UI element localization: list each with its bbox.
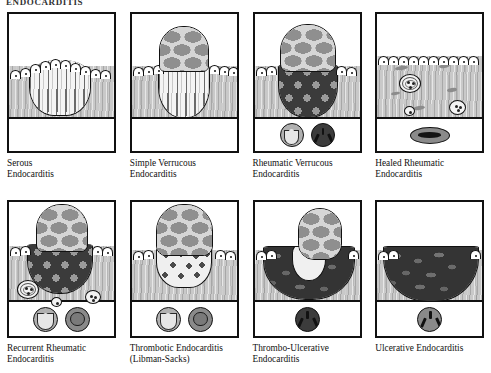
- valve-orifice-shape: [312, 124, 334, 146]
- caption-thrombo-ulcerative-endocarditis: Thrombo-Ulcerative Endocarditis: [253, 343, 362, 365]
- valve-cross-section-nodular-inset: [65, 307, 90, 332]
- verrucous-vegetation: [36, 204, 88, 252]
- scene-serous: [9, 14, 114, 151]
- caption-serous-endocarditis: Serous Endocarditis: [7, 158, 116, 180]
- scene-simple-verrucous: [132, 14, 237, 151]
- thrombotic-vegetation: [156, 204, 213, 256]
- valve-cross-section-cusp-inset: [156, 307, 181, 332]
- scene-recurrent-rheumatic: [9, 202, 114, 336]
- serous-edema-lesion: [158, 64, 210, 118]
- granular-inflammatory-mass: [278, 64, 338, 118]
- valve-inset-shelf: [255, 302, 360, 336]
- caption-recurrent-rheumatic-endocarditis: Recurrent Rheumatic Endocarditis: [7, 343, 116, 365]
- scene-ulcerative: [377, 202, 482, 336]
- panel-thrombo-ulcerative-endocarditis: Thrombo-Ulcerative Endocarditis: [246, 200, 369, 373]
- valve-cross-section-cusp-inset: [33, 307, 58, 332]
- aschoff-body: [17, 280, 39, 299]
- panel-simple-verrucous-endocarditis: Simple Verrucous Endocarditis: [123, 12, 246, 200]
- aschoff-body: [51, 297, 62, 307]
- fibrin-granule-texture: [160, 27, 208, 71]
- valve-nodule-shape: [193, 312, 208, 327]
- plate-title: ENDOCARDITIS: [6, 0, 83, 7]
- figure-ulcerative-endocarditis: [375, 200, 484, 338]
- figure-simple-verrucous-endocarditis: [130, 12, 239, 153]
- caption-ulcerative-endocarditis: Ulcerative Endocarditis: [375, 343, 484, 354]
- inset-shelf-divider: [9, 117, 114, 119]
- valve-slit-shape: [418, 132, 441, 137]
- valve-cusp-shape: [284, 130, 300, 145]
- panel-serous-endocarditis: Serous Endocarditis: [0, 12, 123, 200]
- aschoff-body: [85, 290, 101, 304]
- valve-nodule-shape: [70, 312, 85, 327]
- figure-healed-rheumatic-endocarditis: [375, 12, 484, 153]
- valve-cross-section-nodular-inset: [188, 307, 213, 332]
- caption-thrombotic-endocarditis: Thrombotic Endocarditis (Libman-Sacks): [130, 343, 239, 365]
- valve-cross-section-orifice-inset: [295, 307, 320, 332]
- panel-thrombotic-endocarditis-libman-sacks: Thrombotic Endocarditis (Libman-Sacks): [123, 200, 246, 373]
- valve-cross-section-thickened-inset: [410, 127, 450, 144]
- fibrin-granule-texture: [281, 25, 335, 71]
- panel-rheumatic-verrucous-endocarditis: Rheumatic Verrucous Endocarditis: [246, 12, 369, 200]
- valve-cross-section-cusp-inset: [280, 123, 304, 147]
- thrombotic-vegetation: [298, 208, 342, 260]
- figure-thrombotic-endocarditis: [130, 200, 239, 338]
- endothelial-cell-layer: [377, 52, 482, 61]
- valve-cross-section-orifice-inset: [311, 123, 335, 147]
- endothelial-cell-layer: [9, 62, 114, 71]
- figure-serous-endocarditis: [7, 12, 116, 153]
- figure-recurrent-rheumatic-endocarditis: [7, 200, 116, 338]
- caption-simple-verrucous-endocarditis: Simple Verrucous Endocarditis: [130, 158, 239, 180]
- caption-healed-rheumatic-endocarditis: Healed Rheumatic Endocarditis: [375, 158, 484, 180]
- endothelial-cell-layer: [377, 246, 482, 255]
- endocarditis-plate-grid: Serous Endocarditis: [0, 12, 491, 373]
- scene-healed-rheumatic: [377, 14, 482, 151]
- valve-orifice-shape: [296, 308, 319, 331]
- valve-cusp-shape: [160, 313, 177, 329]
- valve-orifice-shape: [418, 308, 441, 331]
- valve-tissue-layer: [377, 56, 482, 119]
- valve-inset-shelf: [132, 302, 237, 336]
- valve-cross-section-orifice-inset: [417, 307, 442, 332]
- verrucous-vegetation: [159, 26, 209, 72]
- scene-rheumatic-verrucous: [255, 14, 360, 151]
- valve-inset-shelf: [377, 302, 482, 336]
- fibrin-granule-texture: [157, 205, 212, 255]
- caption-rheumatic-verrucous-endocarditis: Rheumatic Verrucous Endocarditis: [253, 158, 362, 180]
- verrucous-vegetation: [280, 24, 336, 72]
- panel-healed-rheumatic-endocarditis: Healed Rheumatic Endocarditis: [368, 12, 491, 200]
- valve-inset-shelf: [255, 119, 360, 151]
- scene-thrombotic-libman-sacks: [132, 202, 237, 336]
- panel-recurrent-rheumatic-endocarditis: Recurrent Rheumatic Endocarditis: [0, 200, 123, 373]
- fibrin-granule-texture: [299, 209, 341, 259]
- valve-inset-shelf: [377, 119, 482, 151]
- figure-rheumatic-verrucous-endocarditis: [253, 12, 362, 153]
- scene-thrombo-ulcerative: [255, 202, 360, 336]
- figure-thrombo-ulcerative-endocarditis: [253, 200, 362, 338]
- panel-ulcerative-endocarditis: Ulcerative Endocarditis: [368, 200, 491, 373]
- valve-inset-shelf: [9, 302, 114, 336]
- fibrin-granule-texture: [37, 205, 87, 251]
- valve-cusp-shape: [37, 313, 54, 329]
